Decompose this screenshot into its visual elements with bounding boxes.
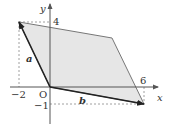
tick-x-neg2: −2 (11, 89, 26, 100)
tick-y-neg1: −1 (34, 100, 49, 111)
origin-label: O (39, 89, 47, 100)
x-axis-label: x (157, 92, 163, 103)
vector-a-label: a (26, 53, 32, 64)
tick-x-6: 6 (140, 75, 146, 86)
vector-b-label: b (79, 95, 86, 106)
y-axis-label: y (39, 3, 46, 14)
tick-y-4: 4 (53, 16, 59, 27)
vector-diagram: y x 4 −2 O −1 6 a b (0, 0, 170, 128)
